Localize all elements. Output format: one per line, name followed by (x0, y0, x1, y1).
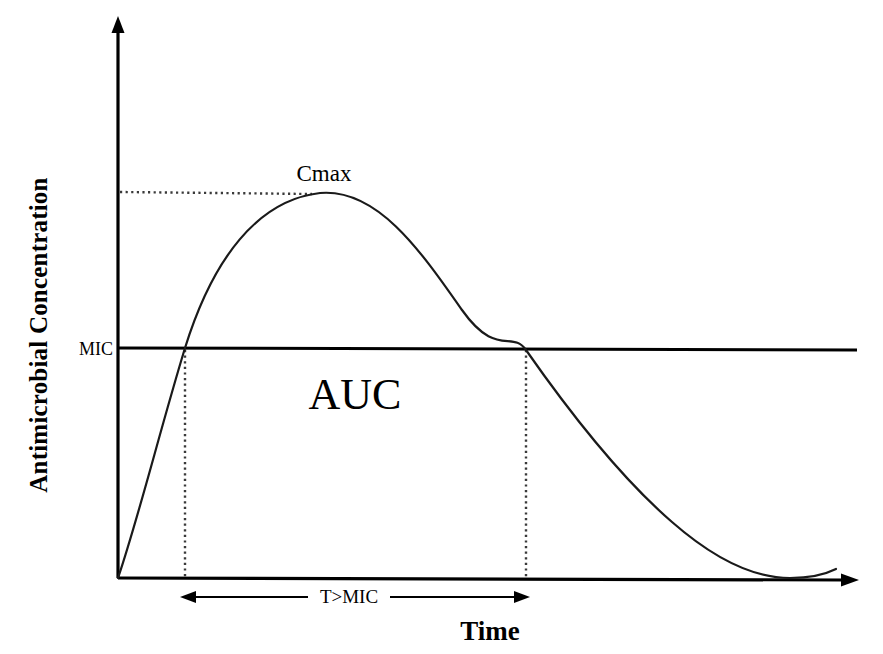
axes-group (112, 16, 860, 587)
x-axis-line (118, 578, 845, 580)
auc-label: AUC (309, 370, 402, 419)
mic-reference-line (118, 348, 857, 350)
cmax-guide-group (120, 192, 312, 194)
tmic-span-arrow-group: T>MIC (180, 586, 530, 607)
mic-reference-group (118, 348, 857, 350)
y-axis-arrowhead (112, 16, 125, 33)
tmic-arrowhead-left (180, 591, 196, 603)
concentration-time-curve (118, 193, 836, 578)
cmax-label: Cmax (297, 161, 352, 186)
pk-pd-figure: T>MIC Antimicrobial Concentration Time M… (0, 0, 883, 654)
concentration-time-chart: T>MIC Antimicrobial Concentration Time M… (0, 0, 883, 654)
tmic-label: T>MIC (320, 586, 378, 607)
x-axis-label: Time (460, 616, 520, 646)
tmic-arrowhead-right (514, 591, 530, 603)
y-axis-label: Antimicrobial Concentration (25, 177, 52, 492)
mic-label: MIC (79, 339, 113, 359)
text-labels-group: Antimicrobial Concentration Time MIC Cma… (25, 161, 520, 646)
x-axis-arrowhead (841, 574, 859, 587)
pk-curve-group (118, 193, 836, 578)
cmax-horizontal-guide (120, 192, 312, 194)
